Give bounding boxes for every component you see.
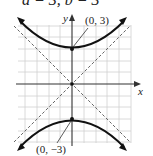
- y-axis-label: y: [62, 12, 68, 24]
- axes: [16, 20, 136, 146]
- vertex-bottom-leader: [57, 121, 71, 143]
- x-axis-label: x: [137, 85, 143, 97]
- vertex-top-leader: [73, 28, 88, 47]
- vertex-top-point: [70, 47, 74, 51]
- origin-point: [70, 82, 74, 86]
- vertex-bottom-point: [70, 117, 74, 121]
- vertex-top-label: (0, 3): [85, 14, 109, 27]
- hyperbola-graph: (0, 3) (0, −3) y x: [0, 0, 153, 156]
- y-axis-arrow-icon: [69, 14, 75, 21]
- vertex-bottom-label: (0, −3): [36, 143, 66, 156]
